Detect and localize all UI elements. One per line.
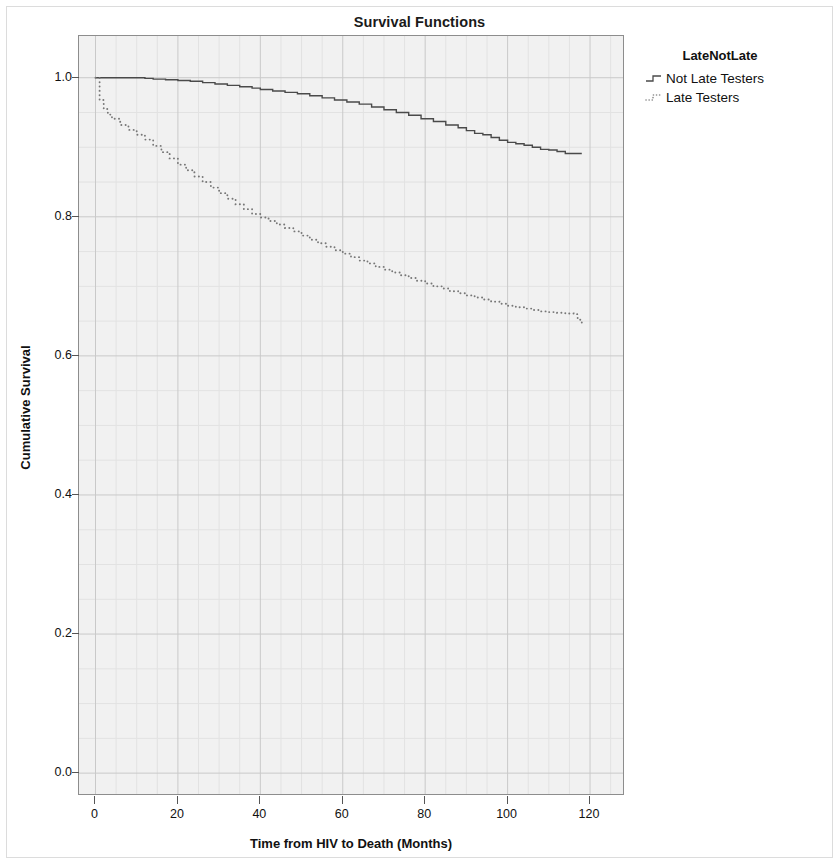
series-line-2	[95, 78, 581, 325]
legend-key-dotted-icon	[645, 91, 665, 105]
x-tick-mark	[259, 796, 260, 804]
chart-title: Survival Functions	[0, 14, 839, 30]
x-tick-label: 20	[147, 807, 207, 821]
x-tick-label: 60	[312, 807, 372, 821]
y-tick-mark	[72, 216, 79, 217]
y-tick-mark	[72, 772, 79, 773]
x-tick-label: 40	[229, 807, 289, 821]
y-tick-label: 0.6	[26, 348, 72, 362]
y-tick-label: 0.4	[26, 487, 72, 501]
legend-entries: Not Late TestersLate Testers	[645, 69, 830, 107]
x-tick-mark	[507, 796, 508, 804]
legend-entry: Not Late Testers	[645, 69, 830, 88]
plot-area	[78, 35, 624, 795]
x-tick-label: 80	[394, 807, 454, 821]
y-tick-mark	[72, 633, 79, 634]
x-tick-mark	[342, 796, 343, 804]
legend-title: LateNotLate	[645, 48, 795, 63]
x-tick-label: 100	[477, 807, 537, 821]
y-tick-label: 1.0	[26, 70, 72, 84]
x-tick-label: 120	[559, 807, 619, 821]
legend-label: Not Late Testers	[666, 71, 764, 86]
x-axis-label: Time from HIV to Death (Months)	[78, 836, 624, 851]
x-axis-ticks: 020406080100120	[78, 796, 624, 830]
chart-page: Survival Functions 0.00.20.40.60.81.0 Cu…	[0, 0, 839, 865]
y-tick-label: 0.8	[26, 209, 72, 223]
legend-entry: Late Testers	[645, 88, 830, 107]
plot-canvas	[79, 36, 623, 794]
y-tick-mark	[72, 494, 79, 495]
y-tick-label: 0.0	[26, 765, 72, 779]
series-lines	[95, 78, 581, 325]
y-tick-label: 0.2	[26, 626, 72, 640]
x-tick-mark	[177, 796, 178, 804]
x-tick-label: 0	[64, 807, 124, 821]
legend-label: Late Testers	[666, 90, 739, 105]
series-line-1	[95, 78, 581, 154]
y-tick-mark	[72, 355, 79, 356]
legend-key-solid-icon	[645, 72, 665, 86]
y-axis-label: Cumulative Survival	[18, 28, 33, 788]
legend: LateNotLate Not Late TestersLate Testers	[645, 48, 830, 107]
y-tick-mark	[72, 77, 79, 78]
x-tick-mark	[589, 796, 590, 804]
x-tick-mark	[424, 796, 425, 804]
x-tick-mark	[94, 796, 95, 804]
